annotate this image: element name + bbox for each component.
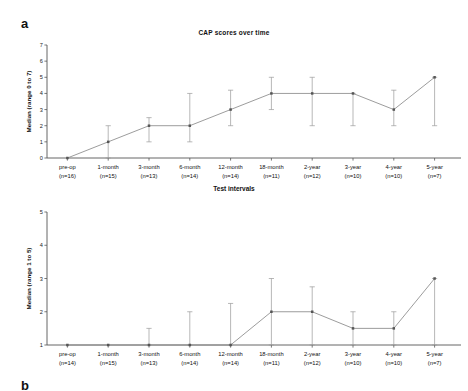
y-tick-label: 4 <box>40 90 43 96</box>
x-tick-label: pre-op <box>59 351 76 357</box>
x-tick-label: 3-month <box>138 351 159 357</box>
x-tick-sample-size: (n=14) <box>59 360 76 366</box>
x-tick-label: 4-year <box>386 351 403 357</box>
y-tick-label: 1 <box>40 342 43 348</box>
chart-panel-a: a CAP scores over time 01234567Median (r… <box>0 0 468 196</box>
x-tick-label: 18-month <box>259 351 284 357</box>
data-point-marker <box>393 108 396 111</box>
x-tick-sample-size: (n=12) <box>304 360 321 366</box>
y-axis-label: Median (range 0 to 7) <box>25 71 32 133</box>
x-tick-sample-size: (n=14) <box>181 173 198 179</box>
data-point-marker <box>189 344 192 347</box>
x-tick-sample-size: (n=14) <box>222 360 239 366</box>
y-tick-label: 5 <box>40 209 43 215</box>
data-point-marker <box>352 327 355 330</box>
x-tick-label: 2-year <box>304 164 321 170</box>
data-point-marker <box>107 344 110 347</box>
chart-panel-b: b SIR scores over time 12345Median (rang… <box>0 190 468 391</box>
x-tick-sample-size: (n=10) <box>345 173 362 179</box>
x-tick-label: 6-month <box>179 164 200 170</box>
y-axis-label: Median (range 1 to 5) <box>25 248 32 310</box>
y-tick-label: 2 <box>40 309 43 315</box>
y-tick-label: 6 <box>40 58 43 64</box>
chart-svg-a: 01234567Median (range 0 to 7)pre-op(n=16… <box>0 0 468 196</box>
x-tick-label: 3-year <box>345 164 362 170</box>
x-tick-sample-size: (n=11) <box>263 360 280 366</box>
x-tick-sample-size: (n=15) <box>100 360 117 366</box>
x-tick-sample-size: (n=13) <box>141 360 158 366</box>
x-tick-sample-size: (n=10) <box>385 360 402 366</box>
x-tick-sample-size: (n=13) <box>141 173 158 179</box>
y-tick-label: 3 <box>40 107 43 113</box>
x-tick-label: 4-year <box>386 164 403 170</box>
data-point-marker <box>148 124 151 127</box>
x-tick-label: 2-year <box>304 351 321 357</box>
series-line <box>67 279 434 346</box>
x-tick-label: 5-year <box>426 351 443 357</box>
x-tick-sample-size: (n=16) <box>59 173 76 179</box>
x-tick-sample-size: (n=14) <box>181 360 198 366</box>
data-point-marker <box>66 157 69 160</box>
y-tick-label: 0 <box>40 155 43 161</box>
y-tick-label: 4 <box>40 242 43 248</box>
data-point-marker <box>433 277 436 280</box>
x-tick-label: 5-year <box>426 164 443 170</box>
x-tick-label: 3-year <box>345 351 362 357</box>
data-point-marker <box>311 92 314 95</box>
x-tick-sample-size: (n=11) <box>263 173 280 179</box>
data-point-marker <box>270 92 273 95</box>
x-tick-label: 12-month <box>218 164 243 170</box>
data-point-marker <box>66 344 69 347</box>
x-tick-sample-size: (n=7) <box>428 360 442 366</box>
data-point-marker <box>433 76 436 79</box>
y-tick-label: 5 <box>40 74 43 80</box>
x-tick-label: 3-month <box>138 164 159 170</box>
x-tick-label: 18-month <box>259 164 284 170</box>
figure-container: a CAP scores over time 01234567Median (r… <box>0 0 468 391</box>
x-tick-sample-size: (n=7) <box>428 173 442 179</box>
chart-svg-b: 12345Median (range 1 to 5)pre-op(n=14)1-… <box>0 190 468 391</box>
data-point-marker <box>229 108 232 111</box>
data-point-marker <box>352 92 355 95</box>
y-tick-label: 1 <box>40 139 43 145</box>
x-tick-label: 1-month <box>98 351 119 357</box>
data-point-marker <box>107 141 110 144</box>
series-line <box>67 77 434 158</box>
x-tick-sample-size: (n=15) <box>100 173 117 179</box>
x-tick-sample-size: (n=12) <box>304 173 321 179</box>
data-point-marker <box>148 344 151 347</box>
data-point-marker <box>393 327 396 330</box>
x-tick-sample-size: (n=10) <box>345 360 362 366</box>
x-tick-label: pre-op <box>59 164 76 170</box>
x-tick-sample-size: (n=14) <box>222 173 239 179</box>
data-point-marker <box>229 344 232 347</box>
x-tick-label: 12-month <box>218 351 243 357</box>
x-tick-label: 1-month <box>98 164 119 170</box>
y-tick-label: 7 <box>40 42 43 48</box>
x-tick-label: 6-month <box>179 351 200 357</box>
data-point-marker <box>270 311 273 314</box>
data-point-marker <box>311 311 314 314</box>
data-point-marker <box>189 124 192 127</box>
y-tick-label: 2 <box>40 123 43 129</box>
y-tick-label: 3 <box>40 276 43 282</box>
x-tick-sample-size: (n=10) <box>385 173 402 179</box>
